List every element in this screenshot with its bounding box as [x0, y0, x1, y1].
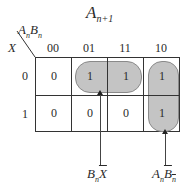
row-variable-label: X [8, 40, 16, 56]
arrow-line [165, 131, 166, 165]
column-header: 10 [143, 41, 179, 56]
cell: 1 [108, 58, 144, 95]
cell: 0 [36, 95, 72, 132]
cell: 1 [144, 95, 180, 132]
group-label-an-bnbar: AnBn [152, 166, 176, 184]
column-variables-label: AnBn [18, 22, 42, 40]
arrowhead-icon [97, 90, 103, 95]
cell: 0 [108, 95, 144, 132]
cell: 0 [72, 95, 108, 132]
cell: 1 [144, 58, 180, 95]
cell: 0 [36, 58, 72, 95]
column-header: 11 [107, 41, 143, 56]
column-header: 00 [35, 41, 71, 56]
column-header: 01 [71, 41, 107, 56]
arrowhead-icon [162, 129, 168, 134]
row-header: 0 [19, 69, 31, 84]
karnaugh-grid: 0 1 1 1 0 0 0 1 [35, 57, 180, 132]
group-label-bn-xbar: BnX [87, 166, 107, 184]
row-header: 1 [19, 107, 31, 122]
arrow-line [100, 92, 101, 165]
